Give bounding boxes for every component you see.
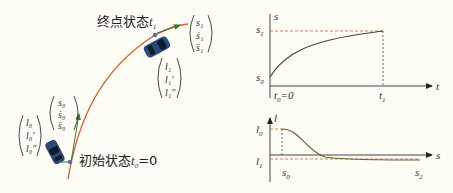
end-car-icon <box>142 35 171 59</box>
start-l-vector: l₀ l₀′ l₀″ <box>19 115 41 156</box>
svg-text:t0=0: t0=0 <box>274 89 294 104</box>
svg-text:s: s <box>274 10 278 22</box>
svg-text:s1: s1 <box>256 23 264 38</box>
svg-text:ṡ₁: ṡ₁ <box>196 30 203 41</box>
start-state-label: 初始状态t0=0 <box>79 153 157 170</box>
svg-text:s₀: s₀ <box>58 97 66 108</box>
svg-text:ṡ₀: ṡ₀ <box>58 109 66 120</box>
end-heading-arrow <box>157 25 180 33</box>
diagram-canvas: 初始状态t0=0 终点状态t1 s₀ ṡ₀ s̈₀ l₀ l₀′ l₀″ s₁ … <box>0 0 453 193</box>
svg-text:l₀′: l₀′ <box>26 130 35 141</box>
start-point <box>68 160 73 165</box>
svg-text:s: s <box>436 149 440 161</box>
svg-text:s̈₁: s̈₁ <box>196 42 203 53</box>
l-s-chart: l s l0 l1 s0 s2 <box>256 112 440 182</box>
svg-text:l: l <box>274 112 277 124</box>
svg-text:t1: t1 <box>379 89 386 104</box>
svg-text:l₁: l₁ <box>165 61 171 72</box>
svg-text:s0: s0 <box>256 71 264 86</box>
svg-text:s₁: s₁ <box>196 17 203 28</box>
end-l-vector: l₁ l₁′ l₁″ <box>158 58 181 98</box>
end-state-label: 终点状态t1 <box>97 14 156 31</box>
start-car-icon <box>44 139 66 166</box>
s-t-chart: s t s1 s0 t0=0 t1 <box>256 10 440 104</box>
svg-text:l0: l0 <box>256 123 263 138</box>
svg-text:s2: s2 <box>415 166 423 181</box>
end-s-vector: s₁ ṡ₁ s̈₁ <box>190 15 212 53</box>
svg-text:l1: l1 <box>256 155 263 170</box>
svg-text:l₀: l₀ <box>26 117 33 128</box>
trajectory-diagram: 初始状态t0=0 终点状态t1 s₀ ṡ₀ s̈₀ l₀ l₀′ l₀″ s₁ … <box>19 14 212 179</box>
end-point <box>153 33 158 38</box>
svg-text:l₁″: l₁″ <box>165 87 176 98</box>
start-s-vector: s₀ ṡ₀ s̈₀ <box>50 96 78 131</box>
svg-text:l₁′: l₁′ <box>165 74 174 85</box>
s-t-curve <box>270 31 383 77</box>
svg-text:l₀″: l₀″ <box>26 143 37 154</box>
svg-text:t: t <box>436 80 440 92</box>
svg-text:s0: s0 <box>282 166 290 181</box>
svg-text:s̈₀: s̈₀ <box>58 120 66 131</box>
